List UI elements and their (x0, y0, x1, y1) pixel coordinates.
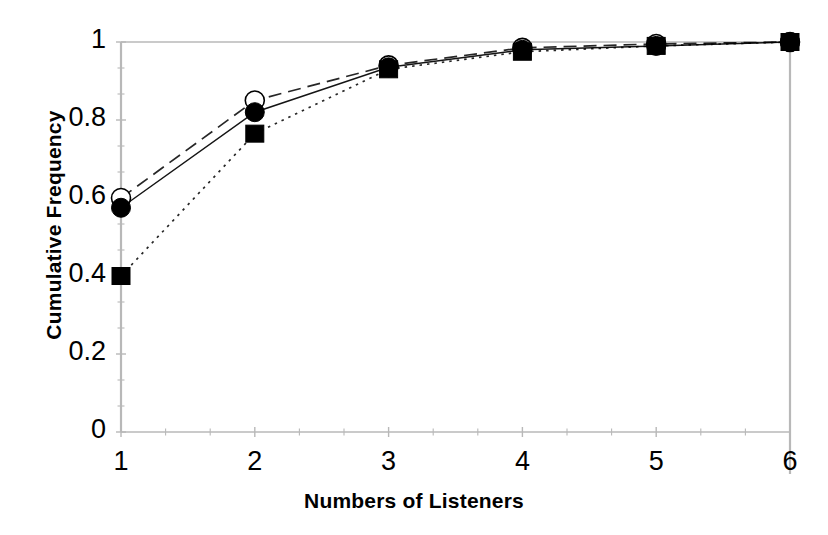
y-axis-tick-label: 1 (16, 24, 106, 55)
data-point-filled-square (513, 43, 531, 60)
x-axis-tick-label: 6 (750, 446, 828, 477)
y-axis-tick-label: 0.8 (16, 102, 106, 133)
x-axis-tick-label: 5 (616, 446, 696, 477)
x-axis-tick-label: 2 (215, 446, 295, 477)
series-line-filled-square (121, 42, 790, 276)
x-axis-tick-label: 1 (81, 446, 161, 477)
data-point-filled-square (781, 34, 799, 51)
x-axis-tick-label: 3 (349, 446, 429, 477)
data-point-filled-square (112, 268, 130, 285)
y-axis-tick-label: 0.6 (16, 180, 106, 211)
y-axis-tick-label: 0.4 (16, 258, 106, 289)
series-line-open-circle (121, 42, 790, 198)
y-axis-tick-label: 0 (16, 414, 106, 445)
axes-layer (116, 42, 790, 474)
y-axis-tick-label: 0.2 (16, 336, 106, 367)
data-point-filled-square (246, 125, 264, 142)
series-layer (112, 33, 800, 285)
data-point-filled-square (380, 61, 398, 78)
data-point-filled-circle (112, 198, 131, 217)
data-point-filled-circle (245, 103, 264, 122)
x-axis-tick-label: 4 (482, 446, 562, 477)
chart-figure: Cumulative Frequency Numbers of Listener… (0, 0, 828, 535)
data-point-filled-square (647, 37, 665, 54)
